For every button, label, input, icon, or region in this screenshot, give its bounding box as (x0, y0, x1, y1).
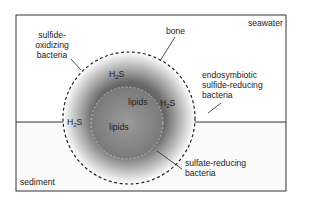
sulfide-oxidizing-label: sulfide- oxidizing bacteria (28, 30, 76, 60)
h2s-label-right: H2S (160, 98, 175, 108)
sulfide-oxidizing-pointer (71, 59, 81, 70)
h2s-label-top: H2S (109, 69, 124, 79)
endosymbiotic-pointer (208, 103, 221, 113)
h2s-label-left: H2S (67, 117, 82, 127)
seawater-label: seawater (248, 18, 283, 28)
bone-label: bone (166, 26, 185, 36)
lipids-label-upper: lipids (128, 97, 148, 107)
sediment-label: sediment (20, 177, 55, 187)
bone-pointer (160, 37, 175, 61)
lipids-label-lower: lipids (109, 122, 129, 132)
endosymbiotic-label: endosymbiotic sulfide-reducing bacteria (202, 70, 263, 100)
sulfate-reducing-label: sulfate-reducing bacteria (185, 158, 246, 178)
